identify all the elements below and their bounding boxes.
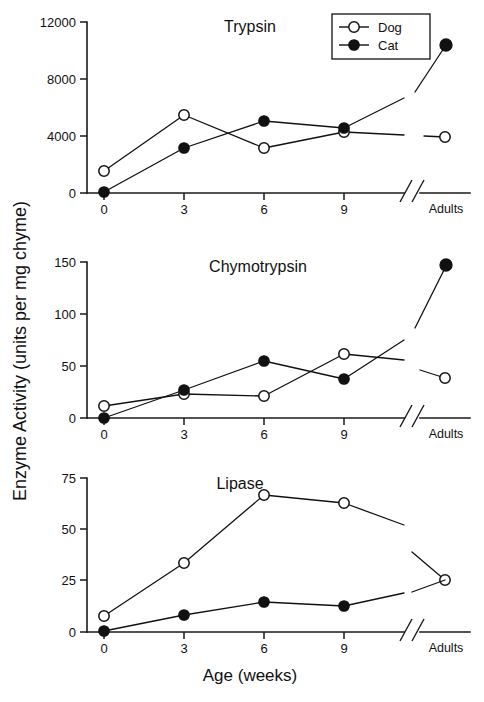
- marker-lipase-cat-9: [339, 601, 349, 611]
- y-ticklabel-lipase-2: 50: [62, 522, 76, 537]
- series-line-lipase-dog-adult-upper: [412, 552, 445, 580]
- marker-lipase-dog-3: [179, 558, 189, 568]
- marker-trypsin-dog-6: [259, 143, 269, 153]
- x-ticklabel-chymotrypsin-adults: Adults: [429, 427, 464, 441]
- y-axis-title: Enzyme Activity (units per mg chyme): [10, 201, 30, 501]
- y-ticklabel-chymotrypsin-1: 50: [62, 359, 76, 374]
- marker-chymotrypsin-dog-0: [99, 401, 109, 411]
- series-line-trypsin-dog: [104, 115, 404, 171]
- y-ticklabel-lipase-1: 25: [62, 573, 76, 588]
- x-ticklabel-lipase-adults: Adults: [429, 641, 464, 655]
- enzyme-activity-figure: Enzyme Activity (units per mg chyme) Try…: [0, 0, 484, 702]
- marker-lipase-cat-6: [259, 597, 269, 607]
- axis-break-mark-3: [400, 405, 412, 427]
- marker-chymotrypsin-dog-6: [259, 391, 269, 401]
- axis-break-mark-5: [400, 619, 412, 641]
- y-ticklabel-trypsin-3: 12000: [40, 15, 76, 30]
- legend-label-cat: Cat: [378, 38, 399, 53]
- marker-trypsin-dog-0: [99, 166, 109, 176]
- x-ticklabel-lipase-3: 3: [180, 641, 187, 656]
- x-ticklabel-chymotrypsin-0: 0: [100, 427, 107, 442]
- marker-lipase-cat-3: [179, 610, 189, 620]
- panel-title-chymotrypsin: Chymotrypsin: [209, 258, 307, 275]
- legend-marker-cat-filled-circle-icon: [349, 40, 359, 50]
- legend-label-dog: Dog: [378, 20, 402, 35]
- marker-lipase-cat-0: [99, 626, 109, 636]
- axis-break-mark-1: [400, 180, 412, 202]
- panel-title-lipase: Lipase: [216, 475, 263, 492]
- series-line-chymotrypsin-dog: [104, 354, 404, 406]
- marker-chymotrypsin-cat-6: [259, 356, 269, 366]
- marker-chymotrypsin-cat-adults: [440, 259, 452, 271]
- axis-break-mark-2: [412, 180, 424, 202]
- x-ticklabel-trypsin-9: 9: [340, 202, 347, 217]
- marker-trypsin-dog-3: [179, 110, 189, 120]
- marker-trypsin-cat-adults: [440, 39, 452, 51]
- marker-chymotrypsin-dog-9: [339, 349, 349, 359]
- series-line-lipase-cat: [104, 593, 404, 631]
- series-line-chymotrypsin-cat: [104, 340, 404, 418]
- marker-lipase-dog-6: [259, 490, 269, 500]
- x-ticklabel-chymotrypsin-3: 3: [180, 427, 187, 442]
- marker-lipase-dog-0: [99, 611, 109, 621]
- y-ticklabel-chymotrypsin-2: 100: [54, 307, 76, 322]
- series-line-lipase-cat-adult: [412, 580, 445, 592]
- axis-break-mark-4: [412, 405, 424, 427]
- panel-chymotrypsin: Chymotrypsin 150 100 50 0 0 3 6 9 Adults: [54, 255, 470, 442]
- legend-marker-dog-open-circle-icon: [349, 22, 359, 32]
- axis-break-mark-6: [412, 619, 424, 641]
- x-ticklabel-lipase-9: 9: [340, 641, 347, 656]
- x-axis-title: Age (weeks): [203, 666, 297, 685]
- figure-container: Enzyme Activity (units per mg chyme) Try…: [0, 0, 484, 702]
- marker-chymotrypsin-cat-0: [99, 413, 109, 423]
- marker-chymotrypsin-dog-adults: [440, 373, 450, 383]
- y-ticklabel-lipase-3: 75: [62, 471, 76, 486]
- marker-trypsin-dog-adults: [440, 132, 450, 142]
- y-ticklabel-trypsin-1: 4000: [47, 129, 76, 144]
- y-ticklabel-chymotrypsin-3: 150: [54, 255, 76, 270]
- marker-trypsin-cat-3: [179, 143, 189, 153]
- series-line-trypsin-cat: [104, 98, 404, 192]
- marker-chymotrypsin-cat-3: [179, 385, 189, 395]
- x-ticklabel-trypsin-6: 6: [260, 202, 267, 217]
- panel-trypsin: Trypsin 12000 8000 4000 0 0 3 6: [40, 14, 470, 217]
- x-ticklabel-chymotrypsin-9: 9: [340, 427, 347, 442]
- x-ticklabel-lipase-6: 6: [260, 641, 267, 656]
- series-line-chymotrypsin-cat-adult: [415, 266, 446, 328]
- x-ticklabel-trypsin-3: 3: [180, 202, 187, 217]
- x-ticklabel-chymotrypsin-6: 6: [260, 427, 267, 442]
- marker-trypsin-cat-9: [339, 123, 349, 133]
- y-ticklabel-trypsin-2: 8000: [47, 72, 76, 87]
- marker-trypsin-cat-0: [99, 187, 109, 197]
- marker-chymotrypsin-cat-9: [339, 374, 349, 384]
- x-ticklabel-trypsin-adults: Adults: [429, 202, 464, 216]
- marker-lipase-dog-9: [339, 498, 349, 508]
- series-line-lipase-dog: [104, 495, 404, 616]
- y-ticklabel-trypsin-0: 0: [69, 186, 76, 201]
- legend: Dog Cat: [332, 14, 430, 59]
- y-ticklabel-chymotrypsin-0: 0: [69, 411, 76, 426]
- panel-lipase: Lipase 75 50 25 0 0 3 6 9 Adults: [62, 471, 470, 656]
- x-ticklabel-lipase-0: 0: [100, 641, 107, 656]
- x-ticklabel-trypsin-0: 0: [100, 202, 107, 217]
- marker-trypsin-cat-6: [259, 116, 269, 126]
- y-ticklabel-lipase-0: 0: [69, 625, 76, 640]
- panel-title-trypsin: Trypsin: [224, 18, 276, 35]
